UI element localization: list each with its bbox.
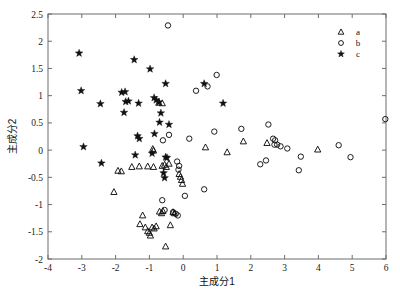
marker-triangle [167,222,173,228]
x-tick-label: 5 [350,263,355,273]
marker-circle [278,144,283,149]
y-tick-label: 1.5 [31,64,43,74]
marker-triangle [137,221,143,227]
marker-triangle [145,163,151,169]
marker-circle [285,146,290,151]
marker-circle [201,187,206,192]
marker-star [75,49,83,56]
marker-triangle [264,140,270,146]
y-tick-label: 2.5 [31,10,43,20]
legend-label: a [356,27,360,37]
marker-circle [263,158,268,163]
y-tick-label: -1.5 [28,227,43,237]
y-tick-label: 2 [38,37,43,47]
marker-circle [336,143,341,148]
marker-star [338,50,345,57]
x-tick-label: 3 [282,263,287,273]
marker-star [151,130,159,137]
marker-circle [348,154,353,159]
marker-circle [160,198,165,203]
legend-label: b [356,38,361,48]
marker-circle [165,23,170,28]
marker-circle [193,88,198,93]
marker-circle [296,168,301,173]
legend: abc [338,27,361,59]
marker-triangle [140,212,146,218]
scatter-plot-figure: -4-3-2-10123456-2-1.5-1-0.500.511.522.5 … [0,0,400,289]
marker-triangle [111,189,117,195]
marker-star [135,99,143,106]
marker-star [80,143,88,150]
marker-triangle [338,29,344,34]
y-axis-title: 主成分2 [7,118,18,154]
marker-circle [166,132,171,137]
marker-triangle [129,164,135,170]
marker-circle [266,122,271,127]
marker-star [97,100,105,107]
y-tick-label: 0.5 [31,118,43,128]
x-tick-label: -4 [44,263,52,273]
x-tick-label: -2 [112,263,120,273]
marker-triangle [150,164,156,170]
marker-triangle [136,163,142,169]
marker-circle [182,193,187,198]
legend-item-a: a [338,27,360,37]
marker-circle [258,162,263,167]
marker-triangle [166,160,172,166]
marker-star [120,109,128,116]
marker-triangle [163,243,169,249]
marker-star [162,80,170,87]
axis-ticks [48,14,386,259]
marker-star [98,159,106,166]
marker-triangle [240,138,246,144]
x-tick-label: 4 [316,263,321,273]
plot-canvas: -4-3-2-10123456-2-1.5-1-0.500.511.522.5 … [0,0,400,289]
marker-star [200,80,208,87]
marker-star [156,118,164,125]
y-tick-label: 0 [38,146,43,156]
x-tick-label: 2 [248,263,253,273]
marker-circle [187,136,192,141]
marker-triangle [224,149,230,155]
marker-triangle [202,144,208,150]
x-axis-title: 主成分1 [199,276,235,287]
x-tick-label: -3 [78,263,86,273]
marker-circle [212,129,217,134]
marker-triangle [179,180,185,186]
x-tick-label: 6 [384,263,389,273]
y-tick-label: -0.5 [28,173,43,183]
marker-triangle [315,146,321,152]
marker-star [157,109,165,116]
marker-circle [160,138,165,143]
marker-star [77,87,85,94]
series-b [160,23,388,218]
x-tick-label: -1 [145,263,153,273]
marker-star [130,56,138,63]
marker-circle [239,126,244,131]
legend-label: c [356,49,360,59]
y-tick-label: 1 [38,91,43,101]
axis-tick-labels: -4-3-2-10123456-2-1.5-1-0.500.511.522.5 [28,10,389,274]
marker-star [146,65,154,72]
marker-circle [339,41,344,46]
series-c [75,49,227,181]
data-points [75,23,388,249]
series-a [111,99,321,249]
plot-frame [48,14,386,259]
x-tick-label: 1 [215,263,220,273]
marker-circle [214,72,219,77]
legend-item-c: c [338,49,360,59]
y-tick-label: -1 [35,200,43,210]
marker-star [165,121,173,128]
plot-border [48,14,386,259]
x-tick-label: 0 [181,263,186,273]
marker-circle [383,116,388,121]
legend-item-b: b [339,38,361,48]
marker-circle [298,154,303,159]
y-tick-label: -2 [35,255,43,265]
marker-star [131,151,139,158]
marker-star [160,169,168,176]
marker-star [219,99,227,106]
